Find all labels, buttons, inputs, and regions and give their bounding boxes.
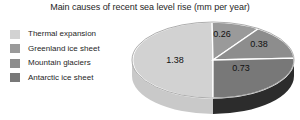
pie-label-antarctic-ice-sheet: 0.73	[232, 63, 250, 73]
legend-label-greenland-ice-sheet: Greenland ice sheet	[28, 44, 100, 54]
legend-swatch-thermal-expansion	[9, 29, 21, 40]
pie-label-mountain-glaciers: 0.38	[250, 39, 268, 49]
legend-item-thermal-expansion[interactable]: Thermal expansion	[9, 27, 131, 42]
legend-item-greenland-ice-sheet[interactable]: Greenland ice sheet	[9, 42, 131, 57]
legend-label-thermal-expansion: Thermal expansion	[28, 29, 96, 39]
legend-item-mountain-glaciers[interactable]: Mountain glaciers	[9, 56, 131, 71]
chart-title: Main causes of recent sea level rise (mm…	[0, 2, 300, 13]
legend-label-antarctic-ice-sheet: Antarctic ice sheet	[28, 73, 93, 83]
pie-chart: 1.38 0.26 0.38 0.73	[128, 14, 298, 120]
legend-swatch-greenland-ice-sheet	[9, 43, 21, 54]
legend-swatch-antarctic-ice-sheet	[9, 72, 21, 83]
chart-legend: Thermal expansion Greenland ice sheet Mo…	[9, 27, 131, 85]
legend-swatch-mountain-glaciers	[9, 58, 21, 69]
chart-figure: Main causes of recent sea level rise (mm…	[0, 0, 300, 120]
legend-item-antarctic-ice-sheet[interactable]: Antarctic ice sheet	[9, 71, 131, 86]
pie-label-thermal-expansion: 1.38	[166, 55, 184, 65]
pie-label-greenland-ice-sheet: 0.26	[213, 29, 231, 39]
legend-label-mountain-glaciers: Mountain glaciers	[28, 58, 91, 68]
